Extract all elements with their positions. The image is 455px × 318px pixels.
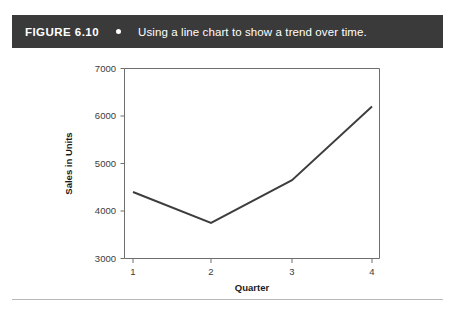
bullet-dot-icon (116, 29, 121, 34)
y-tick-label-3: 6000 (95, 110, 116, 121)
x-tick-label-0: 1 (130, 266, 135, 277)
y-axis-ticks (121, 69, 125, 259)
footer-divider (12, 299, 443, 300)
x-axis-title: Quarter (235, 282, 270, 293)
x-tick-label-1: 2 (208, 266, 213, 277)
chart-svg: 3000 4000 5000 6000 7000 1 2 3 4 (0, 48, 455, 293)
figure-caption-bar: FIGURE 6.10 Using a line chart to show a… (12, 15, 443, 48)
x-tick-label-3: 4 (369, 266, 374, 277)
x-axis-tick-labels: 1 2 3 4 (130, 266, 374, 277)
x-axis-ticks (133, 259, 372, 264)
figure-container: FIGURE 6.10 Using a line chart to show a… (0, 0, 455, 318)
line-chart: 3000 4000 5000 6000 7000 1 2 3 4 (0, 48, 455, 293)
y-tick-label-0: 3000 (95, 253, 116, 264)
figure-number-label: FIGURE 6.10 (25, 26, 99, 38)
y-axis-title: Sales in Units (63, 132, 74, 194)
y-tick-label-1: 4000 (95, 205, 116, 216)
x-tick-label-2: 3 (289, 266, 294, 277)
y-tick-label-4: 7000 (95, 63, 116, 74)
y-axis-tick-labels: 3000 4000 5000 6000 7000 (95, 63, 116, 264)
figure-caption-text: Using a line chart to show a trend over … (138, 26, 367, 38)
y-tick-label-2: 5000 (95, 158, 116, 169)
data-series-line (133, 107, 372, 223)
